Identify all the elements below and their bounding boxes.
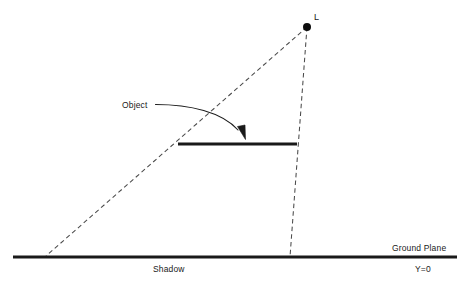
shadow-diagram-canvas: L Object Shadow Ground Plane Y=0 (0, 0, 470, 290)
object-leader-arrowhead-icon (238, 125, 246, 140)
light-source-label: L (314, 12, 319, 22)
light-ray-left-dashed-line (46, 27, 307, 256)
object-leader-arrow-curve (156, 105, 239, 131)
light-source-point (303, 23, 311, 31)
shadow-label: Shadow (153, 264, 185, 274)
ground-plane-label: Ground Plane (392, 243, 446, 253)
ground-equation-label: Y=0 (415, 264, 431, 274)
light-ray-right-dashed-line (290, 27, 307, 257)
object-label: Object (122, 100, 148, 110)
shadow-diagram-svg: L Object Shadow Ground Plane Y=0 (0, 0, 470, 290)
